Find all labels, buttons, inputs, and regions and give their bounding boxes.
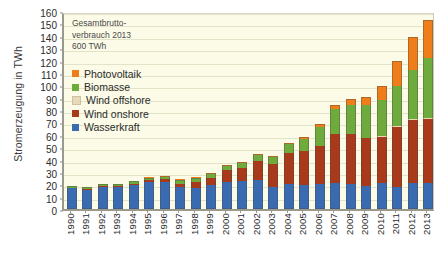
annotation-total-consumption: Gesamtbrutto- verbrauch 2013 600 TWh	[72, 18, 131, 53]
bar-outline-2013	[423, 20, 433, 209]
x-axis-tick-2007: 2007	[328, 213, 339, 235]
x-axis-tick-1996: 1996	[158, 213, 169, 235]
x-axis-tick-2013: 2013	[421, 213, 432, 235]
x-axis-tick-2006: 2006	[313, 213, 324, 235]
bar-outline-2004	[284, 143, 294, 209]
bar-outline-2001	[237, 162, 247, 209]
legend-swatch-icon	[72, 110, 79, 117]
bar-outline-2006	[315, 124, 325, 209]
legend-swatch-icon	[72, 70, 79, 77]
y-axis-tick-160: 160	[40, 8, 57, 19]
y-axis-tick-60: 60	[46, 131, 57, 142]
x-axis-tick-2011: 2011	[390, 213, 401, 234]
x-axis-tick-2004: 2004	[282, 213, 293, 235]
x-axis-tick-labels: 1990199119921993199419951996199719981999…	[62, 213, 434, 253]
y-axis-tick-120: 120	[40, 57, 57, 68]
x-axis-tick-mark	[116, 209, 117, 213]
x-axis-tick-2005: 2005	[297, 213, 308, 235]
y-axis-tick-0: 0	[51, 206, 57, 217]
x-axis-tick-2003: 2003	[266, 213, 277, 235]
y-axis-tick-110: 110	[41, 69, 57, 80]
legend-item-wasserkraft: Wasserkraft	[72, 121, 151, 134]
x-axis-tick-1995: 1995	[142, 213, 153, 235]
y-axis-tick-10: 10	[46, 193, 57, 204]
bar-outline-1990	[67, 186, 77, 209]
y-axis-tick-30: 30	[46, 168, 57, 179]
x-axis-tick-mark	[287, 209, 288, 213]
y-axis-tick-100: 100	[40, 82, 57, 93]
y-axis-tick-140: 140	[40, 32, 57, 43]
x-axis-tick-mark	[364, 209, 365, 213]
x-axis-tick-mark	[70, 209, 71, 213]
bar-outline-2008	[346, 99, 356, 209]
x-axis-tick-mark	[411, 209, 412, 213]
legend-swatch-icon	[72, 84, 79, 91]
x-axis-tick-mark	[426, 209, 427, 213]
renewable-electricity-stacked-bar-chart: Stromerzeugung in TWh 010203040506070809…	[0, 0, 446, 253]
x-axis-tick-1994: 1994	[127, 213, 138, 235]
bar-group-2004	[284, 11, 294, 209]
bar-outline-2011	[392, 61, 402, 209]
legend-label: Photovoltaik	[84, 68, 141, 80]
x-axis-tick-mark	[395, 209, 396, 213]
legend-item-wind-onshore: Wind onshore	[72, 107, 151, 120]
y-axis-tick-50: 50	[46, 144, 57, 155]
x-axis-tick-2002: 2002	[251, 213, 262, 235]
x-axis-tick-1991: 1991	[80, 213, 91, 235]
x-axis-tick-2009: 2009	[359, 213, 370, 235]
bar-group-2005	[299, 11, 309, 209]
bar-outline-1998	[191, 178, 201, 209]
x-axis-tick-1992: 1992	[96, 213, 107, 235]
bar-outline-2002	[253, 154, 263, 209]
x-axis-tick-mark	[85, 209, 86, 213]
bar-outline-1994	[129, 181, 139, 209]
bar-outline-1993	[113, 184, 123, 209]
bar-group-2012	[408, 11, 418, 209]
y-axis-tick-80: 80	[46, 107, 57, 118]
x-axis-tick-mark	[349, 209, 350, 213]
bar-group-2003	[268, 11, 278, 209]
y-axis-tick-70: 70	[46, 119, 57, 130]
legend-label: Wind offshore	[86, 94, 151, 106]
bar-outline-2007	[330, 105, 340, 209]
bar-outline-2012	[408, 37, 418, 209]
bar-group-2013	[423, 11, 433, 209]
x-axis-tick-mark	[333, 209, 334, 213]
x-axis-tick-mark	[240, 209, 241, 213]
bar-group-2010	[377, 11, 387, 209]
x-axis-tick-mark	[194, 209, 195, 213]
bar-group-2006	[315, 11, 325, 209]
legend-swatch-icon	[72, 124, 79, 131]
legend-item-photovoltaik: Photovoltaik	[72, 67, 151, 80]
bar-outline-2010	[377, 86, 387, 209]
bar-group-2008	[346, 11, 356, 209]
x-axis-tick-mark	[318, 209, 319, 213]
x-axis-tick-1997: 1997	[173, 213, 184, 235]
x-axis-tick-2000: 2000	[220, 213, 231, 235]
x-axis-tick-mark	[178, 209, 179, 213]
bar-outline-1991	[82, 187, 92, 209]
y-axis-tick-labels: 0102030405060708090100110120130140150160	[20, 13, 60, 211]
x-axis-tick-mark	[147, 209, 148, 213]
legend-label: Wasserkraft	[84, 121, 140, 133]
x-axis-tick-2001: 2001	[235, 213, 246, 235]
y-axis-tick-20: 20	[46, 181, 57, 192]
x-axis-tick-2010: 2010	[375, 213, 386, 235]
legend-swatch-icon	[72, 96, 81, 105]
legend-label: Wind onshore	[84, 108, 149, 120]
legend-label: Biomasse	[84, 81, 130, 93]
x-axis-tick-2008: 2008	[344, 213, 355, 235]
legend-item-wind-offshore: Wind offshore	[72, 94, 151, 107]
x-axis-tick-1999: 1999	[204, 213, 215, 235]
x-axis-tick-mark	[380, 209, 381, 213]
x-axis-tick-1993: 1993	[111, 213, 122, 235]
x-axis-tick-1998: 1998	[189, 213, 200, 235]
bar-group-2000	[222, 11, 232, 209]
bar-outline-2009	[361, 97, 371, 209]
y-axis-tick-90: 90	[46, 94, 57, 105]
bar-group-1999	[206, 11, 216, 209]
y-axis-tick-150: 150	[40, 20, 57, 31]
bar-outline-2005	[299, 137, 309, 209]
bar-group-2011	[392, 11, 402, 209]
bar-outline-1996	[160, 176, 170, 209]
